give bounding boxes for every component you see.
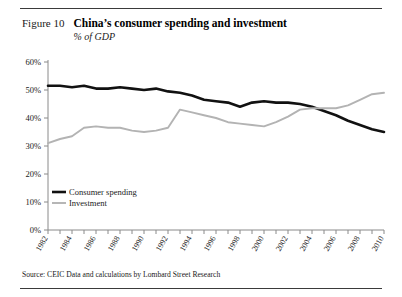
x-tick-label: 1982: [34, 235, 50, 253]
y-tick-label: 30%: [25, 141, 41, 151]
y-tick-label: 50%: [25, 85, 41, 95]
source-note: Source: CEIC Data and calculations by Lo…: [22, 270, 220, 279]
legend-label-0: Consumer spending: [69, 187, 138, 197]
x-tick-label: 1990: [130, 235, 146, 253]
x-tick-label: 1998: [226, 235, 242, 253]
x-tick-label: 2010: [370, 235, 386, 253]
y-tick-label: 40%: [25, 113, 41, 123]
y-tick-label: 10%: [25, 197, 41, 207]
x-tick-label: 1992: [154, 235, 170, 253]
chart-header: Figure 10 China’s consumer spending and …: [22, 17, 382, 43]
x-tick-label: 2002: [274, 235, 290, 253]
bottom-divider: [20, 288, 382, 289]
x-tick-label: 1994: [178, 235, 194, 253]
y-tick-label: 60%: [25, 57, 41, 67]
y-tick-label: 0%: [30, 225, 41, 235]
x-tick-label: 1984: [58, 235, 74, 253]
page-title: China’s consumer spending and investment: [73, 17, 286, 30]
line-chart: 0%10%20%30%40%50%60%19821984198619881990…: [0, 52, 402, 252]
x-tick-label: 1986: [82, 235, 98, 253]
x-tick-label: 2006: [322, 235, 338, 253]
x-tick-label: 2004: [298, 235, 314, 253]
chart-subtitle: % of GDP: [73, 31, 286, 43]
x-tick-label: 1996: [202, 235, 218, 253]
x-tick-label: 2000: [250, 235, 266, 253]
legend-label-1: Investment: [69, 198, 107, 208]
x-tick-label: 2008: [346, 235, 362, 253]
x-tick-label: 1988: [106, 235, 122, 253]
figure-number: Figure 10: [22, 17, 64, 30]
top-divider: [20, 8, 382, 9]
chart-svg: 0%10%20%30%40%50%60%19821984198619881990…: [0, 52, 402, 252]
y-tick-label: 20%: [25, 169, 41, 179]
